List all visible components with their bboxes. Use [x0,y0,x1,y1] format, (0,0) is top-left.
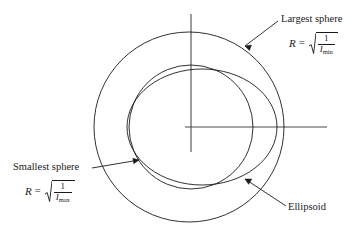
fraction: 1 Imax [54,182,72,202]
formula-equals: = [35,186,41,197]
denominator-subscript: max [59,196,70,203]
leader-lines-group [92,21,286,206]
formula-equals: = [299,38,305,49]
smallest-sphere-formula: R = 1 Imax [25,180,75,202]
arrowhead [245,45,251,51]
fraction-denominator: Imax [54,193,72,203]
smallest-sphere-leader [92,158,139,168]
denominator-subscript: min [323,48,333,55]
figure-root: Largest sphere R = 1 Imin Smallest spher… [0,0,356,230]
largest-sphere-label: Largest sphere [281,14,342,25]
fraction-denominator: Imin [318,45,335,55]
fraction-numerator: 1 [322,34,331,44]
formula-variable-R: R [25,186,32,197]
largest-sphere-formula: R = 1 Imin [289,32,338,54]
smallest-sphere-label: Smallest sphere [13,162,79,173]
largest-sphere-leader [245,21,278,51]
arrowhead [245,179,252,184]
ellipsoid-label: Ellipsoid [288,202,326,213]
fraction: 1 Imin [318,34,335,54]
formula-variable-R: R [289,38,296,49]
radical-sign: 1 Imax [45,180,75,202]
fraction-numerator: 1 [59,182,68,192]
radical-sign: 1 Imin [309,32,338,54]
